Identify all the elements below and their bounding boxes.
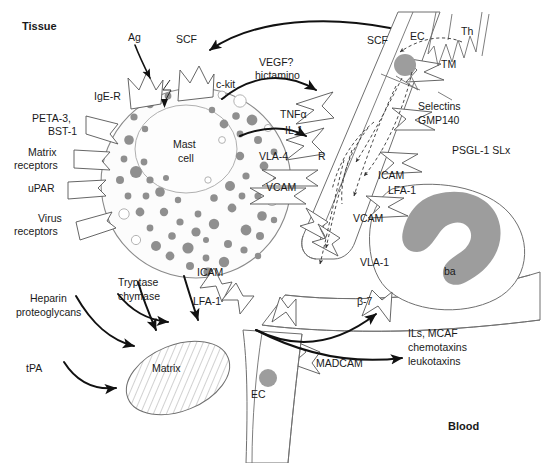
label-hictamino: hictamino [255, 69, 300, 81]
label-ec-top: EC [410, 30, 425, 42]
mast-cell [101, 87, 291, 278]
label-lfa-1-vessel: LFA-1 [388, 184, 416, 196]
label-scf-vessel: SCF [367, 34, 388, 46]
label-mast-cell-line2: cell [178, 152, 194, 164]
label-ige-r: IgE-R [94, 90, 121, 102]
label-gmp140: GMP140 [418, 114, 460, 126]
label-vcam-upper: VCAM [266, 181, 296, 193]
label-beta-7: β-7 [357, 295, 373, 307]
label-vegf: VEGF? [259, 56, 294, 68]
label-madcam: MADCAM [316, 357, 363, 369]
label-icam-vessel: ICAM [378, 169, 404, 181]
label-peta3-line1: PETA-3, [32, 112, 71, 124]
label-c-kit: c-kit [216, 78, 235, 90]
label-tryptase: Tryptase [118, 276, 159, 288]
label-il-1: IL-1 [285, 124, 303, 136]
label-matrix-receptors-line1: Matrix [28, 146, 57, 158]
label-tm: TM [441, 58, 456, 70]
label-vla-1: VLA-1 [360, 256, 389, 268]
label-leukotaxins: leukotaxins [408, 355, 461, 367]
label-chemotaxins: chemotaxins [408, 341, 467, 353]
label-ec-bottom: EC [251, 388, 266, 400]
label-virus-receptors-line1: Virus [38, 212, 62, 224]
label-basophil: ba [444, 265, 456, 277]
label-icam-mast: ICAM [197, 266, 223, 278]
matrix-deposit [116, 327, 241, 429]
label-vcam-lower: VCAM [353, 212, 383, 224]
label-lfa-1-mast: LFA-1 [193, 295, 221, 307]
label-proteoglycans: proteoglycans [16, 306, 81, 318]
label-upar: uPAR [28, 182, 55, 194]
label-heparin: Heparin [30, 292, 67, 304]
label-matrix-receptors-line2: receptors [14, 159, 58, 171]
label-th: Th [461, 25, 473, 37]
label-leader-lines [438, 92, 452, 100]
label-vla-4: VLA-4 [259, 150, 288, 162]
label-peta3-line2: BST-1 [48, 125, 77, 137]
label-ils-mcaf: ILs, MCAF [408, 327, 458, 339]
label-tnf-alpha: TNFα [280, 108, 306, 120]
label-r: R [318, 150, 326, 162]
label-ag: Ag [128, 31, 141, 43]
label-matrix: Matrix [152, 362, 181, 374]
label-chymase: chymase [118, 290, 160, 302]
diagram-canvas: Tissue Blood Ag SCF IgE-R c-kit PETA-3, … [0, 0, 547, 463]
label-scf-top: SCF [176, 33, 197, 45]
label-selectins: Selectins [418, 100, 461, 112]
label-psgl1-slx: PSGL-1 SLx [452, 144, 511, 156]
mast-cell-endothelium-diagram: Tissue Blood Ag SCF IgE-R c-kit PETA-3, … [0, 0, 547, 463]
migrating-cell [394, 54, 416, 76]
label-tissue: Tissue [22, 20, 57, 32]
label-virus-receptors-line2: receptors [14, 225, 58, 237]
label-tpa: tPA [26, 362, 42, 374]
label-blood: Blood [448, 420, 479, 432]
label-mast-cell-line1: Mast [173, 138, 196, 150]
